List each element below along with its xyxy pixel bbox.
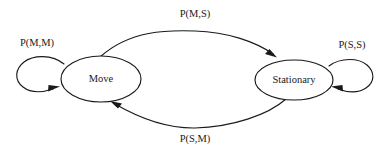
transition-move-to-stationary-path bbox=[100, 31, 273, 57]
transition-label-stationary-to-move: P(S,M) bbox=[180, 133, 211, 145]
transition-move-to-move-arrowhead bbox=[48, 85, 60, 92]
state-label-stationary: Stationary bbox=[272, 74, 316, 85]
transition-label-move-to-move: P(M,M) bbox=[20, 37, 55, 49]
state-node-stationary[interactable]: Stationary bbox=[255, 60, 333, 100]
transition-stationary-to-move bbox=[110, 99, 286, 128]
transition-stationary-to-stationary-arrowhead bbox=[331, 85, 343, 92]
transition-move-to-stationary bbox=[100, 31, 277, 58]
transition-label-stationary-to-stationary: P(S,S) bbox=[338, 39, 366, 51]
transition-stationary-to-move-path bbox=[115, 99, 286, 128]
transition-stationary-to-stationary bbox=[329, 60, 373, 92]
transition-move-to-move bbox=[17, 57, 64, 92]
state-diagram-canvas: P(M,S) P(S,M) P(M,M) P(S,S) Move Station… bbox=[0, 0, 388, 155]
state-node-move[interactable]: Move bbox=[61, 56, 141, 102]
state-diagram-svg: P(M,S) P(S,M) P(M,M) P(S,S) Move Station… bbox=[0, 0, 388, 155]
transition-label-move-to-stationary: P(M,S) bbox=[180, 8, 211, 20]
state-label-move: Move bbox=[89, 73, 114, 84]
